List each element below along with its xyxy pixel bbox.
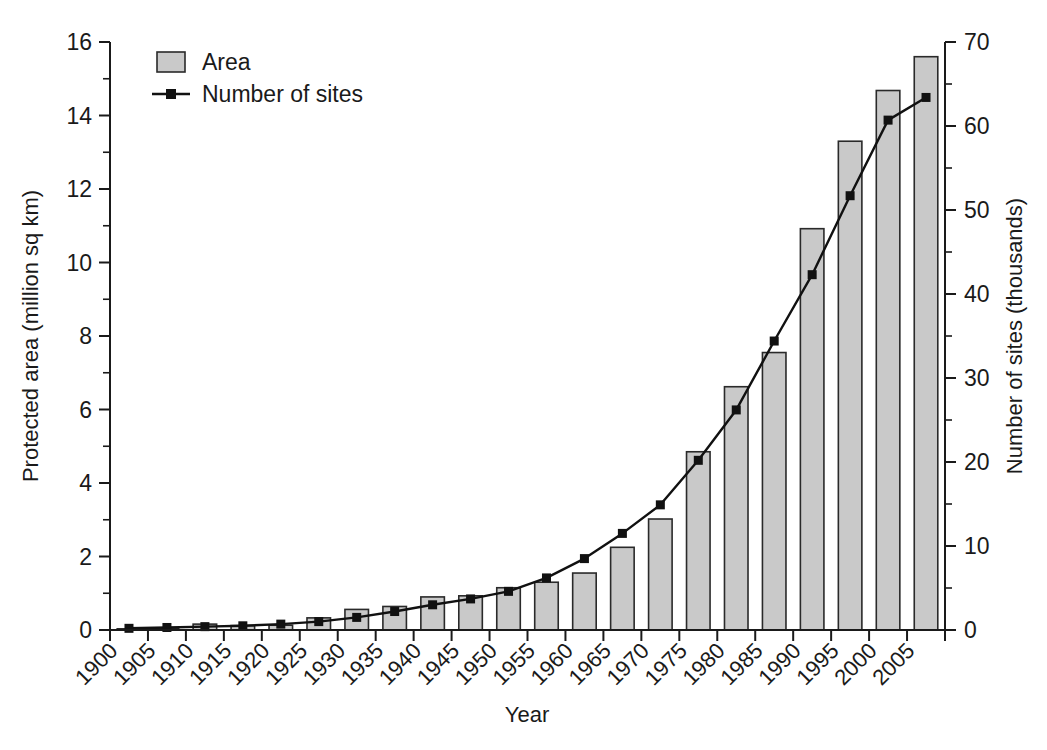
left-tick-label-8: 8	[79, 323, 92, 349]
marker-1985	[770, 337, 779, 346]
legend-marker-number-of-sites	[166, 89, 176, 99]
left-tick-label-2: 2	[79, 544, 92, 570]
left-tick-label-16: 16	[66, 29, 92, 55]
bar-1955	[535, 582, 559, 630]
legend-label-number-of-sites: Number of sites	[202, 81, 363, 107]
legend-label-area: Area	[202, 49, 251, 75]
protected-area-and-sites-chart: 0246810121416 010203040506070 1900190519…	[0, 0, 1047, 750]
marker-1940	[428, 600, 437, 609]
marker-2005	[922, 93, 931, 102]
marker-1990	[808, 270, 817, 279]
bar-1985	[762, 353, 786, 630]
marker-1980	[732, 405, 741, 414]
right-tick-label-10: 10	[964, 533, 990, 559]
marker-1965	[618, 529, 627, 538]
right-tick-label-20: 20	[964, 449, 990, 475]
y-axis-title: Protected area (million sq km)	[18, 190, 43, 482]
right-tick-label-60: 60	[964, 113, 990, 139]
right-tick-label-30: 30	[964, 365, 990, 391]
bar-2000	[876, 91, 900, 630]
bar-1975	[687, 452, 711, 630]
left-tick-label-4: 4	[79, 470, 92, 496]
right-tick-label-40: 40	[964, 281, 990, 307]
bar-1980	[724, 387, 748, 630]
marker-1995	[846, 191, 855, 200]
right-tick-label-0: 0	[964, 617, 977, 643]
marker-1925	[314, 617, 323, 626]
x-axis-title: Year	[505, 702, 549, 727]
left-tick-label-6: 6	[79, 397, 92, 423]
marker-1930	[352, 613, 361, 622]
bar-1970	[649, 519, 673, 630]
marker-1935	[390, 607, 399, 616]
marker-2000	[884, 116, 893, 125]
marker-1900	[124, 624, 133, 633]
left-tick-label-0: 0	[79, 617, 92, 643]
bar-1960	[573, 573, 597, 630]
left-tick-label-10: 10	[66, 250, 92, 276]
marker-1955	[542, 573, 551, 582]
marker-1960	[580, 554, 589, 563]
bar-2005	[914, 57, 938, 630]
legend-swatch-area	[157, 52, 185, 72]
right-tick-label-70: 70	[964, 29, 990, 55]
chart-figure: 0246810121416 010203040506070 1900190519…	[0, 0, 1047, 750]
marker-1945	[466, 594, 475, 603]
y2-axis-title: Number of sites (thousands)	[1002, 198, 1027, 474]
marker-1975	[694, 456, 703, 465]
marker-1950	[504, 587, 513, 596]
left-tick-label-14: 14	[66, 103, 92, 129]
marker-1915	[238, 621, 247, 630]
marker-1970	[656, 500, 665, 509]
bar-1965	[611, 547, 635, 630]
left-tick-label-12: 12	[66, 176, 92, 202]
right-tick-label-50: 50	[964, 197, 990, 223]
marker-1920	[276, 620, 285, 629]
